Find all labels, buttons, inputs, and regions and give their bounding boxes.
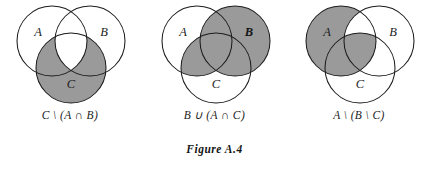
set-label-c: C bbox=[211, 77, 220, 91]
venn-diagram-1: A B C bbox=[5, 0, 135, 108]
set-label-c: C bbox=[67, 77, 76, 91]
shaded-region-2 bbox=[150, 0, 280, 108]
set-label-a: A bbox=[178, 25, 187, 39]
panel-caption-1: C \ (A ∩ B) bbox=[42, 109, 99, 122]
venn-panel-1: A B C C \ (A ∩ B) bbox=[0, 0, 140, 122]
venn-panel-3: A B C A \ (B \ C) bbox=[289, 0, 429, 122]
shaded-region-3 bbox=[294, 0, 424, 108]
figure-label: Figure A.4 bbox=[0, 143, 429, 155]
venn-panel-2: A B C B ∪ (A ∩ C) bbox=[145, 0, 285, 122]
set-label-b: B bbox=[389, 25, 397, 39]
venn-diagram-3: A B C bbox=[294, 0, 424, 108]
figure-a4: A B C C \ (A ∩ B) bbox=[0, 0, 429, 169]
set-label-a: A bbox=[322, 25, 331, 39]
panel-caption-2: B ∪ (A ∩ C) bbox=[184, 109, 245, 122]
panel-caption-3: A \ (B \ C) bbox=[333, 109, 384, 122]
set-label-b: B bbox=[100, 25, 108, 39]
venn-diagram-2: A B C bbox=[150, 0, 280, 108]
venn-panel-row: A B C C \ (A ∩ B) bbox=[0, 0, 429, 140]
set-label-a: A bbox=[33, 25, 42, 39]
set-label-b: B bbox=[243, 25, 252, 39]
set-label-c: C bbox=[356, 77, 365, 91]
